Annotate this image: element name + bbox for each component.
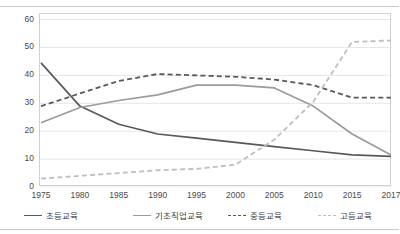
legend-label: 중등교육	[250, 209, 282, 221]
x-tick-label: 2015	[343, 190, 362, 200]
x-tick-label: 1995	[187, 190, 206, 200]
plot-area	[39, 13, 391, 186]
x-tick-label: 1980	[70, 190, 89, 200]
x-tick-label: 2000	[226, 190, 245, 200]
legend-swatch-icon	[318, 215, 336, 216]
x-tick-label: 2010	[304, 190, 323, 200]
bottom-rule	[0, 229, 399, 230]
legend-label: 고등교육	[340, 209, 372, 221]
series-line-2	[41, 74, 391, 106]
legend-item-2[interactable]: 중등교육	[228, 209, 282, 221]
legend-swatch-icon	[133, 215, 151, 216]
legend-item-1[interactable]: 기초직업교육	[133, 209, 203, 221]
series-canvas	[40, 14, 392, 187]
legend-swatch-icon	[228, 215, 246, 216]
legend-label: 기초직업교육	[155, 209, 203, 221]
x-axis-labels: 1975198019851990199520002005201020152017	[39, 190, 391, 202]
series-line-0	[41, 63, 391, 156]
x-tick-label: 1985	[109, 190, 128, 200]
legend-item-0[interactable]: 초등교육	[24, 209, 78, 221]
x-tick-label: 2005	[265, 190, 284, 200]
series-line-3	[41, 41, 391, 179]
x-tick-label: 1990	[148, 190, 167, 200]
legend-item-3[interactable]: 고등교육	[318, 209, 372, 221]
y-tick-label: 50	[4, 42, 34, 51]
y-tick-label: 40	[4, 70, 34, 79]
y-axis-labels: 0102030405060	[0, 13, 34, 186]
y-tick-label: 30	[4, 98, 34, 107]
legend-swatch-icon	[24, 215, 42, 216]
y-tick-label: 20	[4, 126, 34, 135]
legend-label: 초등교육	[46, 209, 78, 221]
x-tick-label: 1975	[32, 190, 51, 200]
y-tick-label: 0	[4, 182, 34, 191]
x-tick-label: 2017	[382, 190, 400, 200]
y-tick-label: 60	[4, 14, 34, 23]
series-line-1	[41, 85, 391, 155]
top-rule	[0, 6, 399, 7]
y-tick-label: 10	[4, 154, 34, 163]
legend: 초등교육기초직업교육중등교육고등교육	[0, 207, 399, 223]
